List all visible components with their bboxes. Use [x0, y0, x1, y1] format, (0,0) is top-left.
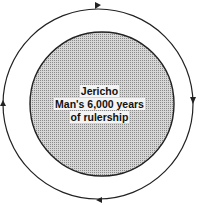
label-line-2: Man's 6,000 years [0, 98, 199, 110]
arrow-bottom-icon [96, 197, 102, 203]
label-line-3: of rulership [0, 111, 199, 123]
arrow-top-icon [95, 2, 101, 9]
label-line-1: Jericho [0, 85, 199, 97]
